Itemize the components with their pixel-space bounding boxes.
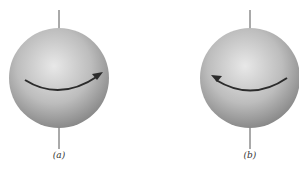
panel-label-a: (a) bbox=[53, 150, 65, 160]
spinning-spheres-diagram bbox=[0, 0, 299, 174]
panel-b bbox=[200, 10, 299, 149]
panel-label-b: (b) bbox=[244, 150, 257, 160]
panel-a bbox=[9, 10, 109, 149]
